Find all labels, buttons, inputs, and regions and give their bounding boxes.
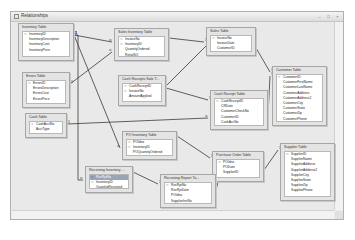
field-list[interactable]: ⚿POIdnoPODateSupplierID	[216, 159, 260, 178]
field-name: SupplierID	[291, 152, 306, 156]
field-name: AmountApplied	[129, 94, 151, 98]
table-title[interactable]: Errors Table	[23, 73, 69, 80]
field-row[interactable]: RetailSO	[119, 53, 164, 57]
field-name: CashAcctNo	[36, 122, 54, 126]
field-row[interactable]: CustomerPhone	[277, 117, 322, 122]
table-receiving_inventory[interactable]: Receiving Inventory ...⚿RecRptNo⚿Invento…	[85, 166, 133, 193]
field-name: RecRptNo	[96, 175, 111, 179]
field-name: InventoryPrice	[29, 48, 50, 52]
field-list[interactable]: ⚿CashReceiptIDCRDateCustomerCheckNoCusto…	[214, 98, 264, 126]
field-name: CustomerCity	[283, 101, 303, 105]
field-list[interactable]: ⚿CashReceiptID⚿InvoiceNoAmountApplied	[122, 83, 162, 102]
field-row[interactable]: CustomerID	[211, 46, 251, 51]
field-list[interactable]: ⚿InvoiceNo⚿InventoryIDQuantityOrderedRet…	[118, 36, 165, 57]
relationship-line-inventory-receiving_inventory[interactable]	[74, 35, 83, 180]
table-sales[interactable]: Sales Table⚿InvoiceNoInvoiceDateCustomer…	[206, 27, 256, 56]
relationship-line-inventory-sales_inventory[interactable]	[74, 35, 112, 42]
table-title[interactable]: Receiving Report Ta...	[161, 175, 215, 182]
field-name: ErrorsDescription	[33, 86, 58, 90]
table-inventory[interactable]: Inventory Table⚿InventoryIDInventoryDesc…	[18, 23, 74, 61]
table-title[interactable]: Purchase Order Table	[213, 152, 263, 159]
field-name: POIdno	[133, 140, 144, 144]
table-supplier[interactable]: Supplier Table⚿SupplierIDSupplierNameSup…	[280, 143, 335, 201]
field-name: RecRptNo	[171, 183, 186, 187]
field-name: CashReceiptID	[221, 99, 243, 103]
field-name: CustomerID	[217, 46, 235, 50]
field-name: CustomerLastName	[283, 85, 312, 89]
table-title[interactable]: Inventory Table	[19, 24, 73, 31]
field-list[interactable]: ⚿CustomerIDCustomerFirstNameCustomerLast…	[276, 74, 323, 122]
table-title[interactable]: Cash Receipt Table	[211, 91, 267, 98]
relationship-line-errors-sales_inventory[interactable]	[70, 52, 112, 84]
table-title[interactable]: Customer Table	[273, 67, 326, 74]
relationship-line-purchase_order-supplier[interactable]	[264, 150, 278, 170]
table-title[interactable]: PO Inventory Table	[123, 132, 176, 139]
relationship-line-receiving_inventory-receiving_report[interactable]	[133, 172, 158, 184]
field-name: InventoryID	[125, 42, 142, 46]
table-errors[interactable]: Errors Table⚿ErrorsIDErrorsDescriptionEr…	[22, 72, 70, 108]
many-cardinality-label: ∞	[80, 176, 83, 180]
field-name: CustomerAddress	[283, 91, 309, 95]
field-name: CustomerPhone	[283, 117, 307, 121]
field-name: CustomerState	[283, 106, 305, 110]
table-purchase_order[interactable]: Purchase Order Table⚿POIdnoPODateSupplie…	[212, 151, 264, 182]
table-title[interactable]: Cash Table	[26, 114, 66, 121]
field-name: ErrorsCost	[33, 91, 49, 95]
one-cardinality-label: 1	[75, 31, 77, 35]
field-name: ErrorsID	[33, 81, 45, 85]
relationship-line-sales-customer[interactable]	[256, 48, 270, 72]
field-name: SupplierZip	[291, 183, 308, 187]
field-list[interactable]: ⚿SupplierIDSupplierNameSupplierAddressSu…	[284, 151, 331, 197]
relationship-line-cash-cash_receipt[interactable]	[67, 118, 208, 124]
field-row[interactable]: POQuantityOrdered	[127, 150, 172, 155]
field-name: CustomerID	[283, 75, 301, 79]
field-row[interactable]: AmountApplied	[123, 94, 161, 99]
field-row[interactable]: SupplierID	[217, 170, 259, 175]
relationship-line-receiving_report-purchase_order[interactable]	[216, 182, 218, 190]
field-name: SupplierAddress2	[291, 168, 317, 172]
field-name: QuantityOrdered	[125, 47, 149, 51]
table-po_inventory[interactable]: PO Inventory Table⚿POIdno⚿InventoryIDPOQ…	[122, 131, 177, 160]
field-list[interactable]: ⚿RecRptNoRecRptDatePOIdnoSupplierInvNo	[164, 182, 212, 204]
field-name: SupplierInvNo	[171, 199, 192, 203]
field-row[interactable]: QuantityReceived	[90, 185, 128, 189]
table-cash_receipts_sales[interactable]: Cash Receipts Sale T...⚿CashReceiptID⚿In…	[118, 75, 166, 106]
relationship-line-po_inventory-purchase_order[interactable]	[177, 136, 210, 158]
table-title[interactable]: Receiving Inventory ...	[86, 167, 132, 174]
field-list[interactable]: ⚿InvoiceNoInvoiceDateCustomerID	[210, 35, 252, 52]
relationship-line-sales-cash_receipts_sales[interactable]	[166, 46, 206, 86]
table-sales_inventory[interactable]: Sales Inventory Table⚿InvoiceNo⚿Inventor…	[114, 28, 169, 61]
relationship-line-sales_inventory-sales[interactable]	[169, 38, 204, 42]
field-name: QuantityReceived	[96, 185, 122, 189]
field-name: AcctType	[36, 127, 50, 131]
table-title[interactable]: Supplier Table	[281, 144, 334, 151]
table-title[interactable]: Cash Receipts Sale T...	[119, 76, 165, 83]
field-name: CustomerID	[221, 115, 239, 119]
field-list[interactable]: ⚿POIdno⚿InventoryIDPOQuantityOrdered	[126, 139, 173, 156]
relationship-line-cash_receipt-customer[interactable]	[268, 76, 270, 115]
field-list[interactable]: ⚿RecRptNo⚿InventoryIDQuantityReceived	[89, 174, 129, 189]
table-cash[interactable]: Cash Table⚿CashAcctNoAcctType	[25, 113, 67, 138]
table-cash_receipt[interactable]: Cash Receipt Table⚿CashReceiptIDCRDateCu…	[210, 90, 268, 130]
field-list[interactable]: ⚿ErrorsIDErrorsDescriptionErrorsCostErro…	[26, 80, 66, 104]
field-row[interactable]: SupplierPhone	[285, 188, 330, 193]
field-row[interactable]: InventoryPrice	[23, 48, 69, 53]
field-name: InventoryID	[133, 145, 150, 149]
field-row[interactable]: SupplierInvNo	[165, 199, 211, 204]
table-title[interactable]: Sales Table	[207, 28, 255, 35]
one-cardinality-label: 1	[71, 80, 73, 84]
table-customer[interactable]: Customer Table⚿CustomerIDCustomerFirstNa…	[272, 66, 327, 126]
field-name: POQuantityOrdered	[133, 150, 162, 154]
field-list[interactable]: ⚿InventoryIDInventoryDescriptionInventor…	[22, 31, 70, 57]
field-row[interactable]: AcctType	[30, 127, 62, 132]
field-row[interactable]: ErrorsPrice	[27, 97, 65, 102]
field-name: SupplierID	[223, 170, 238, 174]
field-list[interactable]: ⚿CashAcctNoAcctType	[29, 121, 63, 134]
field-name: RecRptDate	[171, 188, 189, 192]
relationship-line-cash_receipts_sales-cash_receipt[interactable]	[166, 88, 208, 100]
field-row[interactable]: CashAccNo	[215, 120, 263, 125]
table-title[interactable]: Sales Inventory Table	[115, 29, 168, 36]
table-receiving_report[interactable]: Receiving Report Ta...⚿RecRptNoRecRptDat…	[160, 174, 216, 208]
many-cardinality-label: ∞	[109, 38, 112, 42]
field-name: SupplierPhone	[291, 188, 313, 192]
